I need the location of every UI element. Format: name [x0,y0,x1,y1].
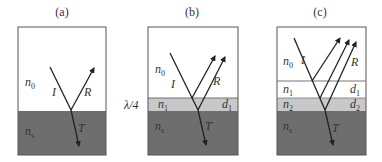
panel-a: (a) n0 ns I R T [18,5,106,155]
panel-c: (c) n0 n1 n2 d1 d2 ns I R T [277,5,366,155]
quarter-wave-label: λ/4 [123,98,139,112]
panel-b-caption: (b) [185,5,199,19]
reflected-label: R [350,55,359,69]
panel-b: (b) n0 n1 d1 ns I R T λ/4 [123,5,238,155]
thin-film-diagram: (a) n0 ns I R T (b) n0 n1 d1 ns I R T λ/… [0,0,382,162]
reflected-label: R [212,74,221,88]
reflected-label: R [83,85,92,99]
ambient-medium [277,27,366,81]
panel-a-caption: (a) [55,5,68,19]
ambient-medium [148,27,238,98]
panel-c-caption: (c) [313,5,326,19]
